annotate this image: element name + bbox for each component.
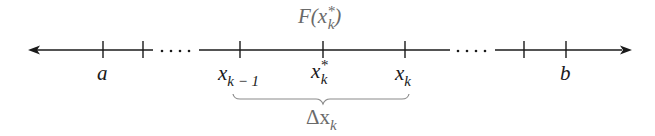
interval-brace: [233, 94, 409, 104]
delta-x-k-label: Δxk: [306, 105, 337, 133]
function-label: F(x*k): [297, 3, 341, 32]
label-a: a: [97, 61, 108, 85]
label-b: b: [560, 61, 571, 85]
label-x-k-star: x*k: [310, 57, 328, 87]
ellipsis-left: [161, 50, 191, 53]
label-x-k: xk: [394, 61, 411, 89]
ellipsis-right: [457, 50, 487, 53]
number-line-diagram: F(x*k) a xk − 1 x*k xk b Δxk: [0, 0, 655, 136]
label-x-k-minus-1: xk − 1: [217, 61, 259, 89]
